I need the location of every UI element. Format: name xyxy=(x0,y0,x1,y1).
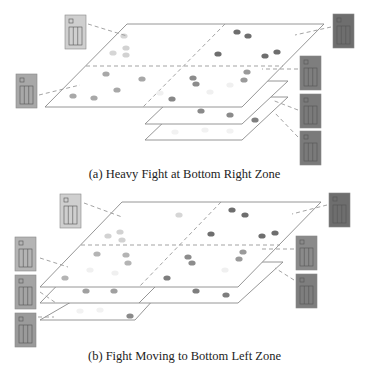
player-dot xyxy=(104,233,111,238)
player-dot xyxy=(273,49,280,54)
player-dot xyxy=(93,251,100,256)
player-dot xyxy=(241,212,248,217)
player-dot xyxy=(214,51,221,56)
player-dot xyxy=(192,81,199,86)
player-dot xyxy=(189,75,196,80)
player-dot xyxy=(207,231,214,236)
player-dot xyxy=(110,288,117,293)
player-dot xyxy=(226,82,233,87)
player-dot xyxy=(239,249,246,254)
server-icon xyxy=(60,194,81,228)
player-dot xyxy=(168,96,175,101)
player-dot xyxy=(221,267,228,272)
player-dot xyxy=(111,270,118,275)
server-icon xyxy=(15,237,36,271)
player-dot xyxy=(184,254,191,259)
player-dot xyxy=(163,275,170,280)
player-dot xyxy=(197,108,204,113)
caption-a: (a) Heavy Fight at Bottom Right Zone xyxy=(0,167,369,182)
player-dot xyxy=(138,76,145,81)
player-dot xyxy=(122,45,129,50)
player-dot xyxy=(243,69,250,74)
player-dot xyxy=(122,252,129,257)
player-dot xyxy=(240,77,247,82)
server-icon xyxy=(329,193,350,227)
server-icon xyxy=(296,274,317,308)
figure-b-fight-moving-bottom-left xyxy=(15,193,350,347)
server-icon xyxy=(15,275,36,309)
zone-diagram xyxy=(0,0,369,377)
player-dot xyxy=(233,29,240,34)
player-dot xyxy=(90,95,97,100)
player-dot xyxy=(96,307,103,312)
player-dot xyxy=(206,89,213,94)
server-icon xyxy=(296,236,317,270)
server-icon xyxy=(65,15,86,49)
server-icon xyxy=(15,313,36,347)
player-dot xyxy=(116,229,123,234)
player-dot xyxy=(126,313,133,318)
player-dot xyxy=(120,33,127,38)
server-link xyxy=(275,268,294,280)
player-dot xyxy=(226,128,233,133)
player-dot xyxy=(76,308,83,313)
server-icon xyxy=(16,74,37,108)
player-dot xyxy=(261,53,268,58)
player-dot xyxy=(235,256,242,261)
server-icon xyxy=(333,14,354,48)
player-dot xyxy=(171,129,178,134)
figure-a-heavy-fight-bottom-right xyxy=(16,14,354,165)
player-dot xyxy=(226,112,233,117)
player-dot xyxy=(228,207,235,212)
player-dot xyxy=(69,93,76,98)
player-dot xyxy=(113,87,120,92)
player-dot xyxy=(156,90,163,95)
player-dot xyxy=(122,52,129,57)
player-dot xyxy=(258,233,265,238)
player-dot xyxy=(109,50,116,55)
player-dot xyxy=(192,288,199,293)
server-icon xyxy=(300,56,321,90)
player-dot xyxy=(222,292,229,297)
player-dot xyxy=(201,127,208,132)
player-dot xyxy=(271,230,278,235)
player-dot xyxy=(82,288,89,293)
player-dot xyxy=(124,260,131,265)
player-dot xyxy=(118,237,125,242)
player-dot xyxy=(102,71,109,76)
player-dot xyxy=(188,260,195,265)
server-icon xyxy=(300,131,321,165)
player-dot xyxy=(61,275,68,280)
server-icon xyxy=(300,94,321,128)
player-dot xyxy=(175,212,182,217)
player-dot xyxy=(244,33,251,38)
server-link xyxy=(274,112,298,137)
caption-b: (b) Fight Moving to Bottom Left Zone xyxy=(0,349,369,364)
player-dot xyxy=(251,117,258,122)
player-dot xyxy=(86,267,93,272)
